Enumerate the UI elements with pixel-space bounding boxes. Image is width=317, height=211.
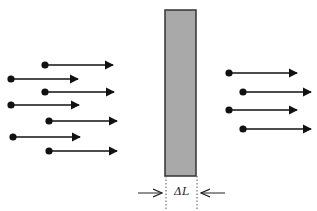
incoming-arrow-4 [7,101,79,108]
outgoing-arrow-1 [225,69,297,76]
thickness-label: ΔL [174,185,189,198]
particle-dot-icon [225,69,232,76]
incoming-arrow-3 [41,88,114,95]
incoming-particle-arrows [7,61,117,154]
incoming-arrow-6 [9,133,80,140]
outgoing-particle-arrows [225,69,311,132]
outgoing-arrow-2 [239,88,311,95]
particle-dot-icon [45,117,52,124]
particle-dot-icon [45,147,52,154]
incoming-arrow-1 [41,61,113,68]
incoming-arrow-5 [45,117,117,124]
particle-dot-icon [239,88,246,95]
attenuation-diagram [0,0,317,211]
particle-dot-icon [9,133,16,140]
particle-dot-icon [41,61,48,68]
particle-dot-icon [239,125,246,132]
outgoing-arrow-3 [225,106,297,113]
particle-dot-icon [225,106,232,113]
outgoing-arrow-4 [239,125,311,132]
particle-dot-icon [7,101,14,108]
absorber-slab [165,10,196,176]
incoming-arrow-7 [45,147,117,154]
incoming-arrow-2 [7,75,78,82]
particle-dot-icon [7,75,14,82]
particle-dot-icon [41,88,48,95]
